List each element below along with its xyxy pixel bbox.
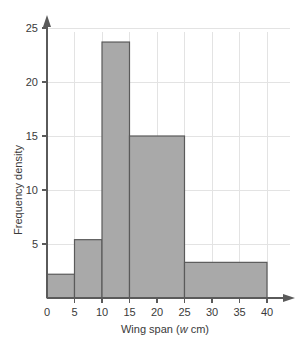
- histogram-plot: 5101520250510152025303540 Frequency dens…: [0, 0, 307, 356]
- histogram-bar-15-25: [130, 136, 185, 298]
- histogram-bar-10-15: [102, 42, 130, 298]
- y-tick-label-25: 25: [26, 22, 38, 34]
- histogram-figure: 5101520250510152025303540 Frequency dens…: [0, 0, 307, 356]
- y-tick-label-20: 20: [26, 76, 38, 88]
- x-axis-title-prefix: Wing span (: [121, 323, 180, 335]
- x-axis-arrowhead: [283, 294, 295, 302]
- y-tick-label-10: 10: [26, 184, 38, 196]
- y-axis-arrowhead: [43, 15, 51, 27]
- x-tick-label-5: 5: [71, 306, 77, 318]
- x-tick-label-20: 20: [151, 306, 163, 318]
- x-tick-label-25: 25: [178, 306, 190, 318]
- x-tick-label-40: 40: [261, 306, 273, 318]
- histogram-bar-25-40: [185, 262, 268, 298]
- x-tick-label-0: 0: [44, 306, 50, 318]
- histogram-bar-0-5: [47, 274, 75, 298]
- x-axis-title-suffix: cm): [188, 323, 209, 335]
- x-tick-label-35: 35: [233, 306, 245, 318]
- x-tick-label-30: 30: [206, 306, 218, 318]
- x-tick-label-10: 10: [96, 306, 108, 318]
- y-tick-label-5: 5: [32, 238, 38, 250]
- x-tick-label-15: 15: [123, 306, 135, 318]
- y-axis-title: Frequency density: [12, 145, 24, 235]
- y-tick-label-15: 15: [26, 130, 38, 142]
- x-axis-title: Wing span (w cm): [121, 323, 209, 335]
- histogram-bar-5-10: [75, 240, 103, 298]
